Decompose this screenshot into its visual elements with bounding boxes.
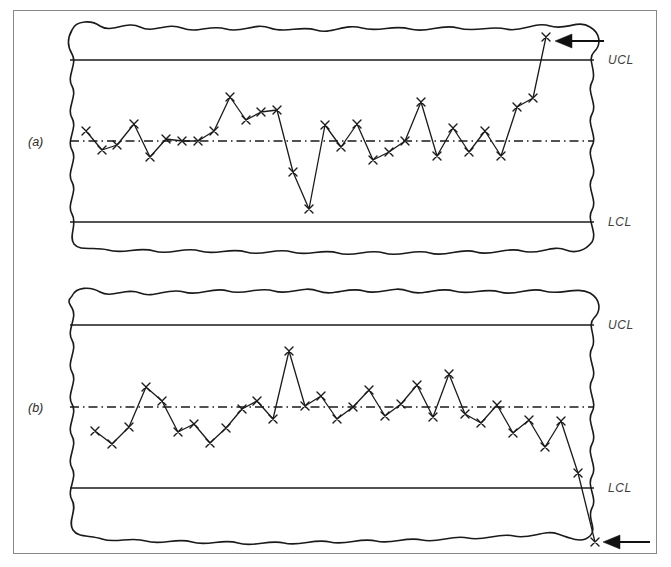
panel-a: UCL LCL (a) <box>28 22 634 255</box>
figure-canvas: UCL LCL (a) <box>0 0 671 567</box>
out-of-control-arrow-b <box>603 535 650 549</box>
lcl-label-a: LCL <box>608 215 632 229</box>
ucl-label-b: UCL <box>608 318 634 332</box>
panel-label-a: (a) <box>28 135 43 149</box>
lcl-label-b: LCL <box>608 481 632 495</box>
ucl-label-a: UCL <box>608 53 634 67</box>
control-chart-figure: UCL LCL (a) <box>0 0 671 567</box>
panel-label-b: (b) <box>28 401 43 415</box>
panel-b: UCL LCL (b) <box>28 288 650 549</box>
torn-sheet-a <box>69 22 599 255</box>
